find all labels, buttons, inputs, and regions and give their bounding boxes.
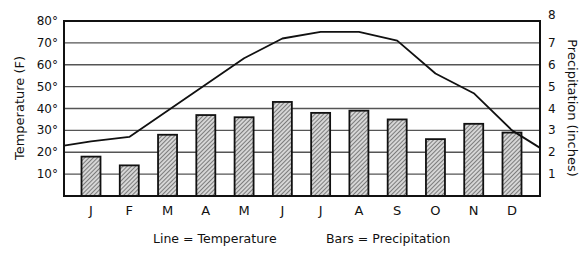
precipitation-bar: [273, 102, 292, 196]
month-label: M: [162, 203, 173, 218]
month-label: J: [279, 203, 284, 218]
climate-chart: 10°20°30°40°50°60°70°80° 12345678 JFMAMJ…: [0, 0, 588, 255]
right-tick-label: 3: [548, 123, 556, 137]
right-axis-title: Precipitation (inches): [565, 39, 580, 177]
month-label: A: [201, 203, 210, 218]
precipitation-bar: [235, 117, 254, 196]
precipitation-bar: [158, 135, 177, 196]
left-tick-label: 40°: [37, 102, 58, 116]
precipitation-bar: [120, 165, 139, 196]
left-axis-ticks: 10°20°30°40°50°60°70°80°: [37, 14, 58, 181]
left-tick-label: 70°: [37, 36, 58, 50]
precipitation-bar: [82, 157, 101, 196]
precipitation-bar: [464, 124, 483, 196]
right-tick-label: 5: [548, 80, 556, 94]
left-tick-label: 20°: [37, 145, 58, 159]
month-label: F: [126, 203, 133, 218]
left-tick-label: 50°: [37, 80, 58, 94]
right-axis-ticks: 12345678: [548, 8, 556, 181]
precipitation-bar: [426, 139, 445, 196]
month-label: S: [393, 203, 401, 218]
right-tick-label: 6: [548, 58, 556, 72]
right-tick-label: 1: [548, 167, 556, 181]
precipitation-bars: [82, 102, 522, 196]
precipitation-bar: [311, 113, 330, 196]
left-tick-label: 10°: [37, 167, 58, 181]
month-label: M: [238, 203, 249, 218]
x-axis-month-labels: JFMAMJJASOND: [88, 203, 517, 218]
right-tick-label: 8: [548, 8, 556, 22]
month-label: N: [469, 203, 479, 218]
month-label: O: [430, 203, 440, 218]
month-label: J: [88, 203, 93, 218]
precipitation-bar: [349, 111, 368, 196]
month-label: J: [318, 203, 323, 218]
right-tick-label: 2: [548, 145, 556, 159]
precipitation-bar: [503, 133, 522, 196]
legend-line-label: Line = Temperature: [153, 231, 277, 246]
precipitation-bar: [388, 119, 407, 196]
right-tick-label: 7: [548, 36, 556, 50]
left-tick-label: 60°: [37, 58, 58, 72]
month-label: D: [507, 203, 517, 218]
left-tick-label: 30°: [37, 123, 58, 137]
left-tick-label: 80°: [37, 14, 58, 28]
month-label: A: [354, 203, 363, 218]
left-axis-title: Temperature (F): [12, 56, 27, 161]
legend-bars-label: Bars = Precipitation: [326, 231, 450, 246]
right-tick-label: 4: [548, 102, 556, 116]
precipitation-bar: [196, 115, 215, 196]
